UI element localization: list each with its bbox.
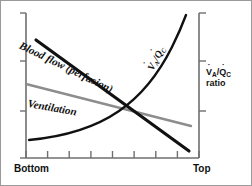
ratio-sub-c: C [226, 71, 231, 78]
right-axis-label-line2: ratio [206, 78, 231, 89]
ratio-q-symbol: ·/Q [217, 67, 227, 78]
chart-plot-area [1, 1, 252, 186]
right-axis-label-line1: ·VA·/QC [206, 67, 231, 78]
overdot-icon: · [208, 63, 211, 67]
x-axis-ticks [26, 151, 199, 158]
overdot-icon: · [222, 63, 225, 67]
x-axis-label-top: Top [193, 163, 211, 174]
series-va-qc-curve [29, 15, 186, 140]
right-axis-label: ·VA·/QC ratio [206, 67, 231, 89]
x-axis-label-bottom: Bottom [14, 163, 49, 174]
figure-container: Blood flow (perfusion) Ventilation ·VA·/… [0, 0, 252, 186]
ratio-slash-q: /Q [217, 67, 227, 77]
